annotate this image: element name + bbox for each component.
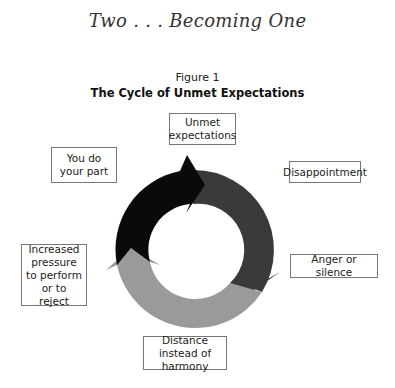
label-distance-instead-of-harmony: Distance instead of harmony (143, 336, 227, 370)
cycle-segment-black (115, 155, 205, 265)
label-increased-pressure: Increased pressure to perform or to reje… (21, 244, 87, 306)
label-you-do-your-part: You do your part (51, 147, 117, 183)
cycle-diagram (0, 0, 395, 388)
label-anger-or-silence: Anger or silence (290, 254, 378, 278)
cycle-segment-dark-gray (193, 170, 280, 300)
label-unmet-expectations: Unmet expectations (169, 113, 236, 145)
cycle-segment-light-gray (106, 248, 262, 328)
label-disappointment: Disappointment (289, 161, 361, 183)
